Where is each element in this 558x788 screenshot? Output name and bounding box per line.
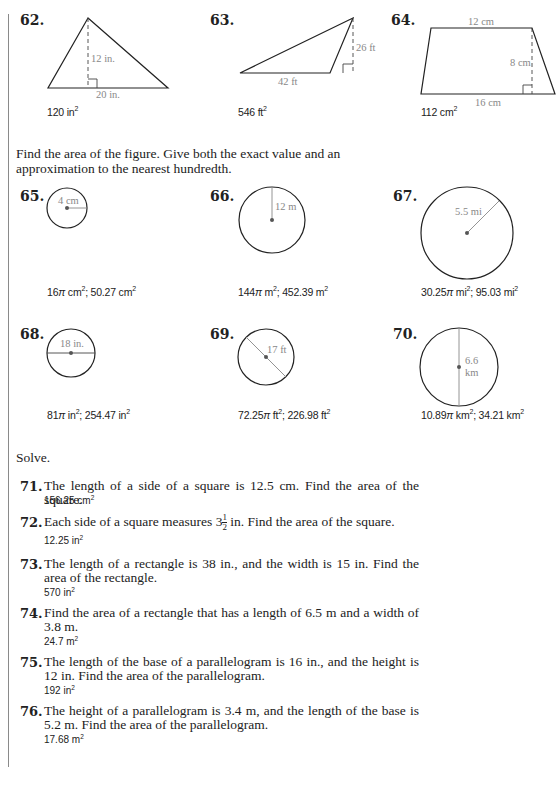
height-label-62: 12 in. bbox=[91, 53, 115, 64]
diameter-label-70-unit: km bbox=[465, 367, 478, 378]
answer-69-coef: 72.25 bbox=[238, 409, 263, 421]
problem-number-74: 74. bbox=[20, 606, 43, 621]
answer-68-unit: in bbox=[65, 409, 76, 421]
problem-answer-74: 24.7 m2 bbox=[44, 635, 78, 647]
answer-65: 16π cm2; 50.27 cm2 bbox=[47, 285, 136, 298]
base-label-62: 20 in. bbox=[96, 89, 120, 100]
problem-text-75: The length of the base of a parallelogra… bbox=[44, 655, 419, 683]
answer-text: 17.68 m bbox=[44, 734, 80, 745]
diameter-label-69: 17 ft bbox=[267, 344, 287, 355]
exp: 2 bbox=[327, 408, 331, 415]
answer-68-coef: 81 bbox=[47, 409, 58, 421]
problem-number-72: 72. bbox=[20, 515, 43, 530]
answer-69: 72.25π ft2; 226.98 ft2 bbox=[238, 408, 330, 421]
answer-65-approx: ; 50.27 cm bbox=[85, 286, 132, 298]
exp: 2 bbox=[514, 285, 518, 292]
answer-67: 30.25π mi2; 95.03 mi2 bbox=[421, 285, 518, 298]
circle-figure-65: 4 cm bbox=[47, 188, 87, 228]
diameter-label-70-value: 6.6 bbox=[465, 355, 478, 366]
exp: 2 bbox=[132, 285, 136, 292]
answer-67-approx: ; 95.03 mi bbox=[470, 286, 514, 298]
trapezoid-figure-64: 12 cm 8 cm 16 cm bbox=[421, 16, 555, 108]
radius-label-65: 4 cm bbox=[58, 195, 79, 206]
answer-65-coef: 16 bbox=[47, 286, 58, 298]
problem-text-73: The length of a rectangle is 38 in., and… bbox=[44, 557, 419, 585]
exp: 2 bbox=[71, 684, 75, 691]
answer-69-approx: ; 226.98 ft bbox=[282, 409, 327, 421]
answer-66: 144π m2; 452.39 m2 bbox=[238, 285, 328, 298]
problem-number-68: 68. bbox=[20, 326, 44, 342]
height-label-64: 8 cm bbox=[510, 57, 531, 68]
answer-70-unit: km bbox=[453, 409, 469, 421]
problem-number-76: 76. bbox=[20, 704, 43, 719]
text-after: in. Find the area of the square. bbox=[227, 514, 395, 529]
radius-label-66: 12 m bbox=[275, 201, 296, 212]
exp: 2 bbox=[80, 534, 84, 541]
answer-text: 12.25 in bbox=[44, 535, 80, 546]
answer-63: 546 ft2 bbox=[238, 105, 267, 118]
answer-67-unit: mi bbox=[453, 286, 466, 298]
problem-answer-71: 156.25 cm2 bbox=[44, 494, 94, 506]
answer-70-coef: 10.89 bbox=[421, 409, 446, 421]
top-label-64: 12 cm bbox=[468, 16, 494, 27]
exp: 2 bbox=[520, 408, 524, 415]
problem-number-69: 69. bbox=[210, 326, 234, 342]
answer-62-exp: 2 bbox=[74, 105, 78, 112]
answer-63-exp: 2 bbox=[263, 105, 267, 112]
exp: 2 bbox=[91, 494, 95, 501]
base-label-63: 42 ft bbox=[278, 76, 298, 87]
exp: 2 bbox=[126, 408, 130, 415]
instruction-circles: Find the area of the figure. Give both t… bbox=[16, 146, 396, 176]
diameter-label-68: 18 in. bbox=[60, 338, 84, 349]
answer-63-text: 546 ft bbox=[238, 106, 263, 118]
circle-figure-67: 5.5 mi bbox=[421, 187, 513, 279]
answer-66-unit: m bbox=[262, 286, 273, 298]
answer-64: 112 cm2 bbox=[421, 105, 457, 118]
problem-answer-73: 570 in2 bbox=[44, 586, 75, 598]
bottom-label-64: 16 cm bbox=[475, 97, 501, 108]
answer-64-exp: 2 bbox=[453, 105, 457, 112]
answer-70-approx: ; 34.21 km bbox=[473, 409, 520, 421]
problem-text-74: Find the area of a rectangle that has a … bbox=[44, 606, 419, 634]
answer-70: 10.89π km2; 34.21 km2 bbox=[421, 408, 524, 421]
answer-65-unit: cm bbox=[65, 286, 81, 298]
triangle-figure-63: 26 ft 42 ft bbox=[240, 18, 376, 87]
circle-figure-68: 18 in. bbox=[47, 329, 95, 377]
problem-number-75: 75. bbox=[20, 655, 43, 670]
problem-text-72: Each side of a square measures 312 in. F… bbox=[44, 513, 419, 532]
exp: 2 bbox=[75, 635, 79, 642]
problem-number-65: 65. bbox=[20, 188, 44, 204]
pi-symbol: π bbox=[255, 286, 262, 298]
problem-number-71: 71. bbox=[20, 479, 43, 494]
answer-66-approx: ; 452.39 m bbox=[277, 286, 325, 298]
circle-figure-66: 12 m bbox=[239, 187, 305, 253]
problem-number-66: 66. bbox=[210, 188, 234, 204]
exp: 2 bbox=[80, 733, 84, 740]
answer-62: 120 in2 bbox=[47, 105, 78, 118]
exp: 2 bbox=[324, 285, 328, 292]
triangle-figure-62: 12 in. 20 in. bbox=[48, 18, 168, 100]
answer-62-text: 120 in bbox=[47, 106, 74, 118]
circle-figure-69: 17 ft bbox=[238, 329, 294, 385]
text-before: Each side of a square measures 3 bbox=[44, 514, 222, 529]
problem-number-73: 73. bbox=[20, 557, 43, 572]
circle-figure-70: 6.6 km bbox=[420, 328, 498, 406]
answer-67-coef: 30.25 bbox=[421, 286, 446, 298]
problem-number-70: 70. bbox=[393, 326, 417, 342]
answer-text: 24.7 m bbox=[44, 636, 75, 647]
answer-64-text: 112 cm bbox=[421, 106, 453, 118]
height-label-63: 26 ft bbox=[356, 42, 376, 53]
answer-68: 81π in2; 254.47 in2 bbox=[47, 408, 130, 421]
problem-answer-72: 12.25 in2 bbox=[44, 534, 83, 546]
answer-text: 570 in bbox=[44, 587, 71, 598]
answer-text: 156.25 cm bbox=[44, 495, 91, 506]
radius-label-67: 5.5 mi bbox=[455, 206, 482, 217]
problem-text-76: The height of a parallelogram is 3.4 m, … bbox=[44, 704, 419, 732]
answer-68-approx: ; 254.47 in bbox=[79, 409, 126, 421]
exp: 2 bbox=[71, 586, 75, 593]
answer-text: 192 in bbox=[44, 685, 71, 696]
problem-answer-75: 192 in2 bbox=[44, 684, 75, 696]
instruction-solve: Solve. bbox=[16, 450, 50, 465]
problem-answer-76: 17.68 m2 bbox=[44, 733, 84, 745]
answer-66-coef: 144 bbox=[238, 286, 255, 298]
